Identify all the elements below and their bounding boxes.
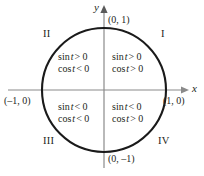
y-axis-arrowhead xyxy=(100,5,107,13)
point-label-left: (–1, 0) xyxy=(4,95,31,107)
sin-function-name: sin xyxy=(58,51,70,62)
y-axis-label: y xyxy=(94,1,99,14)
cos-function-name: cos xyxy=(112,63,125,74)
quadrant-iii-cos-condition: cost< 0 xyxy=(58,113,89,125)
unit-circle-diagram: y x (0, 1) (0, –1) (–1, 0) (1, 0) I II I… xyxy=(0,0,204,176)
quadrant-numeral-i: I xyxy=(161,28,165,40)
point-label-top: (0, 1) xyxy=(108,14,130,26)
quadrant-ii-sin-condition: sint> 0 xyxy=(58,51,89,63)
cos-relation: < 0 xyxy=(76,63,89,74)
quadrant-ii-cos-condition: cost< 0 xyxy=(58,63,89,75)
cos-relation: > 0 xyxy=(130,113,143,124)
quadrant-i-sin-condition: sint> 0 xyxy=(112,51,143,63)
quadrant-i-signs: sint> 0 cost> 0 xyxy=(112,51,143,75)
quadrant-numeral-ii: II xyxy=(43,28,51,40)
quadrant-numeral-iii: III xyxy=(43,135,54,147)
diagram-canvas xyxy=(0,0,204,176)
point-label-bottom: (0, –1) xyxy=(108,153,135,165)
quadrant-i-cos-condition: cost> 0 xyxy=(112,63,143,75)
quadrant-iii-sin-condition: sint< 0 xyxy=(58,101,89,113)
quadrant-iv-signs: sint< 0 cost> 0 xyxy=(112,101,143,125)
sin-function-name: sin xyxy=(112,101,124,112)
sin-relation: < 0 xyxy=(74,101,87,112)
point-label-right: (1, 0) xyxy=(163,95,185,107)
x-axis-arrowhead xyxy=(181,86,189,93)
cos-relation: > 0 xyxy=(130,63,143,74)
sin-relation: < 0 xyxy=(128,101,141,112)
quadrant-ii-signs: sint> 0 cost< 0 xyxy=(58,51,89,75)
quadrant-numeral-iv: IV xyxy=(158,135,170,147)
cos-function-name: cos xyxy=(58,63,71,74)
sin-function-name: sin xyxy=(58,101,70,112)
x-axis-label: x xyxy=(192,82,197,95)
quadrant-iv-sin-condition: sint< 0 xyxy=(112,101,143,113)
cos-relation: < 0 xyxy=(76,113,89,124)
quadrant-iii-signs: sint< 0 cost< 0 xyxy=(58,101,89,125)
cos-function-name: cos xyxy=(112,113,125,124)
quadrant-iv-cos-condition: cost> 0 xyxy=(112,113,143,125)
sin-relation: > 0 xyxy=(74,51,87,62)
cos-function-name: cos xyxy=(58,113,71,124)
sin-function-name: sin xyxy=(112,51,124,62)
sin-relation: > 0 xyxy=(128,51,141,62)
